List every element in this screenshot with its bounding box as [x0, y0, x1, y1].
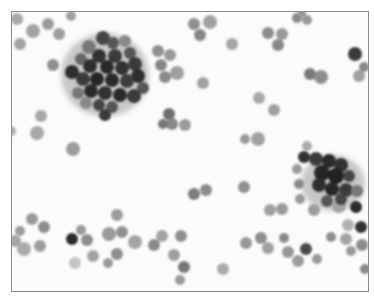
scattered-cells: [12, 12, 368, 285]
micrograph-frame: [11, 11, 369, 292]
cell-micrograph: [12, 12, 368, 291]
